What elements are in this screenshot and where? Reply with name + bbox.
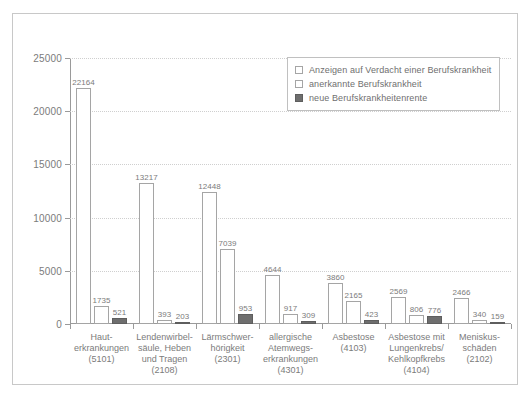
bar: 7039 bbox=[220, 249, 235, 324]
bar: 423 bbox=[364, 320, 379, 325]
y-axis-tick bbox=[65, 218, 70, 219]
bar-value-label: 340 bbox=[473, 310, 487, 319]
bar-value-label: 393 bbox=[158, 310, 172, 319]
bar: 159 bbox=[490, 322, 505, 324]
bar: 4644 bbox=[265, 275, 280, 324]
bar-value-label: 13217 bbox=[135, 173, 158, 182]
bar-value-label: 2466 bbox=[452, 288, 470, 297]
bar: 340 bbox=[472, 320, 487, 324]
bar: 521 bbox=[112, 318, 127, 324]
bar-value-label: 806 bbox=[410, 305, 424, 314]
x-axis-tick bbox=[511, 324, 512, 329]
x-axis-tick bbox=[448, 324, 449, 329]
legend-item-label: anerkannte Berufskrankheit bbox=[309, 79, 422, 89]
legend-swatch-icon bbox=[295, 66, 303, 74]
bar: 776 bbox=[427, 316, 442, 324]
y-axis-tick bbox=[65, 111, 70, 112]
chart-figure: 0500010000150002000025000 22164173552113… bbox=[12, 13, 518, 385]
bar: 13217 bbox=[139, 183, 154, 324]
bar-value-label: 521 bbox=[113, 308, 127, 317]
bar-value-label: 4644 bbox=[263, 265, 281, 274]
x-axis-tick bbox=[196, 324, 197, 329]
x-axis-category-label: Lärmschwer- hörigkeit (2301) bbox=[196, 332, 259, 365]
legend-item-label: Anzeigen auf Verdacht einer Berufskrankh… bbox=[309, 65, 491, 75]
x-axis-tick bbox=[385, 324, 386, 329]
bar-value-label: 203 bbox=[176, 312, 190, 321]
x-axis-category-label: Asbestose (4103) bbox=[322, 332, 385, 354]
bar-group: 221641735521 bbox=[76, 58, 127, 324]
x-axis-category-label: Asbestose mit Lungenkrebs/ Kehlkopfkrebs… bbox=[385, 332, 448, 376]
y-axis-tick-label: 20000 bbox=[33, 106, 62, 117]
bar-value-label: 3860 bbox=[326, 273, 344, 282]
y-axis-tick-label: 10000 bbox=[33, 212, 62, 223]
x-axis-tick bbox=[133, 324, 134, 329]
x-axis-tick bbox=[70, 324, 71, 329]
bar-group: 13217393203 bbox=[139, 58, 190, 324]
x-axis-category-label: allergische Atemwegs- erkrankungen (4301… bbox=[259, 332, 322, 376]
legend-item-label: neue Berufskrankheitenrente bbox=[309, 93, 427, 103]
legend-item: anerkannte Berufskrankheit bbox=[295, 77, 491, 91]
bar: 917 bbox=[283, 314, 298, 324]
bar: 2569 bbox=[391, 297, 406, 324]
x-axis-tick bbox=[322, 324, 323, 329]
bar: 393 bbox=[157, 320, 172, 324]
y-axis-tick-label: 15000 bbox=[33, 159, 62, 170]
bar-value-label: 423 bbox=[365, 310, 379, 319]
bar-value-label: 776 bbox=[428, 306, 442, 315]
bar-value-label: 22164 bbox=[72, 78, 95, 87]
bar-value-label: 2165 bbox=[344, 291, 362, 300]
x-axis-category-label: Lendenwirbel- säule, Heben und Tragen (2… bbox=[133, 332, 196, 376]
bar-group: 124487039953 bbox=[202, 58, 253, 324]
legend-swatch-icon bbox=[295, 80, 303, 88]
bar: 2466 bbox=[454, 298, 469, 324]
bar: 12448 bbox=[202, 192, 217, 324]
bar-value-label: 2569 bbox=[389, 287, 407, 296]
bar-value-label: 1735 bbox=[92, 296, 110, 305]
chart-legend: Anzeigen auf Verdacht einer Berufskrankh… bbox=[287, 57, 500, 111]
bar: 2165 bbox=[346, 301, 361, 324]
legend-item: neue Berufskrankheitenrente bbox=[295, 91, 491, 105]
x-axis-category-label: Haut- erkrankungen (5101) bbox=[70, 332, 133, 365]
bar-value-label: 12448 bbox=[198, 182, 221, 191]
x-axis-category-label: Meniskus- schäden (2102) bbox=[448, 332, 511, 365]
y-axis-tick-label: 0 bbox=[56, 319, 62, 330]
bar-value-label: 159 bbox=[491, 312, 505, 321]
bar-value-label: 917 bbox=[284, 304, 298, 313]
bar: 1735 bbox=[94, 306, 109, 324]
bar: 203 bbox=[175, 322, 190, 324]
legend-swatch-icon bbox=[295, 94, 303, 102]
bar: 309 bbox=[301, 321, 316, 324]
bar-value-label: 309 bbox=[302, 311, 316, 320]
bar-value-label: 953 bbox=[239, 304, 253, 313]
bar: 953 bbox=[238, 314, 253, 324]
y-axis-tick-label: 5000 bbox=[39, 265, 62, 276]
y-axis-line bbox=[70, 58, 71, 324]
bar: 22164 bbox=[76, 88, 91, 324]
bar: 806 bbox=[409, 315, 424, 324]
x-axis-tick bbox=[259, 324, 260, 329]
bar-value-label: 7039 bbox=[218, 239, 236, 248]
legend-item: Anzeigen auf Verdacht einer Berufskrankh… bbox=[295, 63, 491, 77]
y-axis-tick bbox=[65, 164, 70, 165]
bar: 3860 bbox=[328, 283, 343, 324]
y-axis-tick-label: 25000 bbox=[33, 53, 62, 64]
y-axis-tick bbox=[65, 271, 70, 272]
y-axis-tick bbox=[65, 58, 70, 59]
